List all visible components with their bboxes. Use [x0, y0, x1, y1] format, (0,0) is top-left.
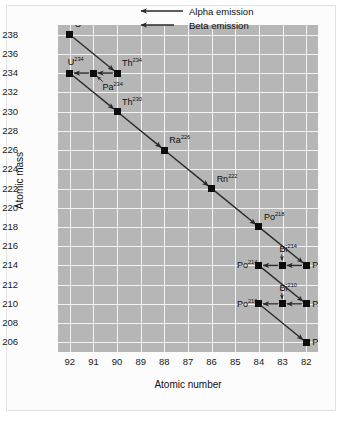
decay-arrow-alpha	[120, 114, 161, 147]
nuclide-marker	[303, 262, 310, 269]
y-axis-title: Atomic mass	[14, 126, 25, 236]
nuclide-marker	[161, 147, 168, 154]
nuclide-marker	[279, 300, 286, 307]
y-tick-label: 238	[0, 30, 18, 40]
y-tick-label: 212	[0, 280, 18, 290]
legend-item-beta: Beta emission	[138, 18, 253, 32]
legend-label-beta: Beta emission	[189, 20, 249, 31]
y-tick-label: 230	[0, 107, 18, 117]
legend: Alpha emission Beta emission	[138, 4, 253, 32]
decay-chain-figure: 2382362342322302282262242222202182162142…	[0, 0, 344, 421]
nuclide-marker	[279, 262, 286, 269]
nuclide-label: Bi210	[280, 284, 297, 293]
legend-label-alpha: Alpha emission	[189, 6, 253, 17]
nuclide-label: Pb210	[312, 300, 318, 309]
label-leader-line	[97, 76, 103, 81]
beta-arrow-icon	[138, 20, 184, 30]
y-tick-label: 208	[0, 318, 18, 328]
x-tick-label: 82	[291, 357, 321, 367]
y-tick-label: 206	[0, 337, 18, 347]
nuclide-marker	[208, 185, 215, 192]
nuclide-marker	[90, 70, 97, 77]
y-tick-label: 210	[0, 299, 18, 309]
nuclide-label: Po218	[264, 213, 284, 222]
nuclide-marker	[114, 70, 121, 77]
nuclide-label: Th230	[122, 98, 142, 107]
y-tick-label: 232	[0, 87, 18, 97]
nuclide-marker	[66, 70, 73, 77]
nuclide-label: Pb214	[312, 261, 318, 270]
decay-arrow-alpha	[73, 76, 114, 109]
y-tick-label: 234	[0, 68, 18, 78]
y-tick-label: 214	[0, 260, 18, 270]
nuclide-marker	[114, 108, 121, 115]
y-tick-label: 216	[0, 241, 18, 251]
x-axis-title: Atomic number	[58, 379, 318, 390]
legend-item-alpha: Alpha emission	[138, 4, 253, 18]
nuclide-label: Pa234	[102, 83, 122, 92]
nuclide-label: Rn222	[217, 175, 238, 184]
nuclide-marker	[255, 223, 262, 230]
nuclide-label: Pb206	[312, 338, 318, 347]
decay-arrow-alpha	[215, 191, 256, 224]
nuclide-marker	[66, 31, 73, 38]
decay-arrow-alpha	[168, 153, 209, 186]
nuclide-marker	[303, 339, 310, 346]
nuclide-label: Po210	[237, 300, 257, 309]
nuclide-label: Ra226	[169, 136, 190, 145]
nuclide-label: Th234	[122, 59, 142, 68]
plot-area: U238Th234Pa234U234Th230Ra226Rn222Po218Pb…	[58, 25, 318, 352]
decay-arrow-alpha	[262, 307, 303, 340]
nuclide-label: U234	[68, 58, 84, 67]
nuclide-label: Bi214	[280, 245, 297, 254]
nuclide-label: U238	[75, 25, 91, 29]
nuclide-marker	[303, 300, 310, 307]
y-tick-label: 236	[0, 49, 18, 59]
alpha-arrow-icon	[138, 6, 184, 16]
nuclide-label: Po214	[237, 261, 257, 270]
